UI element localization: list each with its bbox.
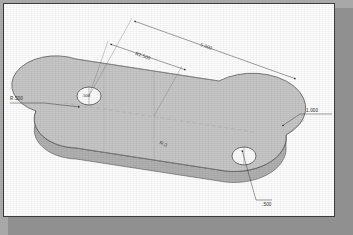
drawing-canvas: 5.000 R2.500 R.500 1.000 [0, 0, 353, 235]
part-geometry [12, 56, 306, 183]
dimension-label-hole-diameter: .500 [262, 202, 272, 207]
dimension-label-hole-spacing: R2.500 [135, 51, 152, 61]
dimension-label-overall-length: 5.000 [200, 42, 213, 51]
technical-drawing-svg: 5.000 R2.500 R.500 1.000 [4, 4, 335, 217]
dimension-line [134, 21, 296, 79]
drawing-sheet: 5.000 R2.500 R.500 1.000 [3, 3, 335, 217]
drawing-viewport: 5.000 R2.500 R.500 1.000 [4, 4, 334, 216]
dimension-label-corner-radius: R.500 [10, 96, 23, 101]
annotation-left-hole-callout: .500 [82, 93, 91, 98]
dimension-label-width: 1.000 [306, 108, 319, 113]
